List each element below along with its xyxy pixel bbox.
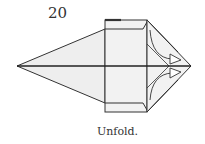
origami-fold-diagram [0,0,205,144]
instruction-caption: Unfold. [97,125,138,138]
